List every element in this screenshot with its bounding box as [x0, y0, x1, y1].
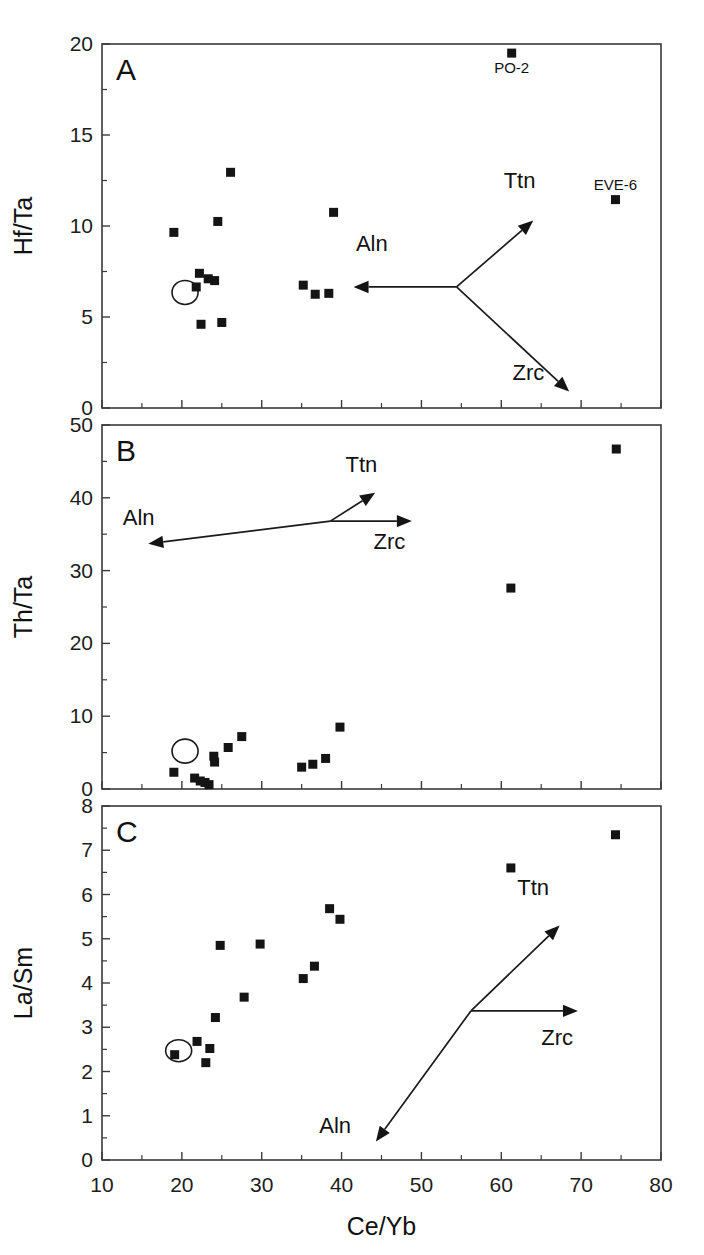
vector-label-ttn-A: Ttn — [504, 168, 536, 193]
x-axis-title: Ce/Yb — [347, 1212, 416, 1240]
y-tick-label-A-3: 15 — [70, 123, 93, 146]
y-axis-title-A: Hf/Ta — [9, 197, 37, 255]
data-point-A-1 — [195, 269, 204, 278]
data-point-A-5 — [197, 320, 206, 329]
y-tick-label-C-4: 4 — [81, 971, 93, 994]
data-point-B-10 — [308, 760, 317, 769]
vector-label-aln-A: Aln — [356, 231, 388, 256]
x-tick-label-0: 10 — [90, 1173, 113, 1196]
data-point-B-8 — [237, 732, 246, 741]
vector-line-ttn-B — [330, 501, 362, 521]
y-tick-label-C-5: 5 — [81, 927, 93, 950]
vector-arrowhead-aln-B — [148, 536, 164, 548]
data-point-C-3 — [205, 1044, 214, 1053]
vector-zrc-A: Zrc — [457, 287, 570, 392]
x-axis-group: 1020304050607080Ce/Yb — [90, 1173, 672, 1240]
panel-letter-A: A — [116, 53, 136, 86]
x-tick-label-3: 40 — [330, 1173, 353, 1196]
data-point-C-11 — [335, 915, 344, 924]
data-point-B-9 — [297, 763, 306, 772]
vector-ttn-B: Ttn — [330, 452, 377, 522]
data-point-C-12 — [506, 863, 515, 872]
data-point-C-7 — [256, 940, 265, 949]
data-point-C-6 — [240, 993, 249, 1002]
data-point-A-0 — [169, 228, 178, 237]
vector-line-ttn-C — [471, 936, 549, 1011]
plot-frame-B — [102, 425, 661, 789]
multi-panel-scatter-figure: 05101520Hf/TaAAlnTtnZrcPO-2EVE-601020304… — [0, 0, 704, 1255]
data-point-A-13 — [507, 49, 516, 58]
data-point-A-10 — [311, 290, 320, 299]
x-tick-label-6: 70 — [569, 1173, 592, 1196]
data-point-label-eve-6: EVE-6 — [594, 176, 637, 193]
panel-letter-C: C — [116, 815, 138, 848]
plot-frame-A — [102, 44, 661, 408]
y-tick-label-C-3: 3 — [81, 1015, 93, 1038]
y-axis-title-C: La/Sm — [9, 947, 37, 1019]
data-point-C-1 — [193, 1037, 202, 1046]
data-point-C-2 — [201, 1058, 210, 1067]
vector-aln-B: Aln — [123, 505, 331, 548]
data-point-B-11 — [321, 754, 330, 763]
vector-label-zrc-A: Zrc — [512, 360, 544, 385]
data-point-A-3 — [210, 276, 219, 285]
data-point-C-10 — [325, 904, 334, 913]
panel-C: 012345678La/SmCAlnTtnZrc — [9, 794, 661, 1171]
data-point-A-7 — [213, 217, 222, 226]
data-point-A-11 — [324, 289, 333, 298]
data-point-A-9 — [299, 281, 308, 290]
panel-letter-B: B — [116, 434, 136, 467]
panel-B: 01020304050Th/TaBAlnTtnZrc — [9, 413, 661, 800]
data-point-B-6 — [210, 758, 219, 767]
data-point-B-13 — [506, 584, 515, 593]
y-tick-label-B-4: 40 — [70, 486, 93, 509]
data-point-B-14 — [612, 445, 621, 454]
y-tick-label-B-2: 20 — [70, 631, 93, 654]
vector-ttn-A: Ttn — [457, 168, 536, 287]
y-tick-label-C-0: 0 — [81, 1148, 93, 1171]
y-tick-label-C-1: 1 — [81, 1104, 93, 1127]
data-point-A-4 — [192, 282, 201, 291]
x-tick-label-2: 30 — [250, 1173, 273, 1196]
data-point-C-9 — [310, 962, 319, 971]
vector-ttn-C: Ttn — [471, 875, 560, 1011]
vector-label-aln-C: Aln — [319, 1113, 351, 1138]
data-point-A-14 — [611, 195, 620, 204]
vector-line-aln-B — [163, 521, 330, 542]
vector-arrowhead-zrc-C — [563, 1005, 578, 1017]
y-tick-label-C-6: 6 — [81, 883, 93, 906]
vector-zrc-B: Zrc — [330, 515, 411, 554]
y-axis-title-B: Th/Ta — [9, 576, 37, 639]
x-tick-label-5: 60 — [490, 1173, 513, 1196]
x-tick-label-4: 50 — [410, 1173, 433, 1196]
data-point-A-8 — [226, 168, 235, 177]
data-point-B-7 — [224, 743, 233, 752]
vector-arrowhead-aln-A — [354, 281, 369, 293]
y-tick-label-A-2: 10 — [70, 214, 93, 237]
y-tick-label-B-1: 10 — [70, 704, 93, 727]
data-point-C-8 — [299, 974, 308, 983]
vector-arrowhead-aln-C — [376, 1126, 390, 1142]
data-point-B-12 — [335, 723, 344, 732]
vector-label-ttn-B: Ttn — [346, 452, 378, 477]
data-point-C-0 — [170, 1050, 179, 1059]
data-point-B-4 — [205, 780, 214, 789]
data-point-label-po-2: PO-2 — [494, 59, 529, 76]
y-tick-label-C-7: 7 — [81, 838, 93, 861]
y-tick-label-C-2: 2 — [81, 1060, 93, 1083]
x-tick-label-7: 80 — [649, 1173, 672, 1196]
vector-zrc-C: Zrc — [471, 1005, 578, 1050]
vector-arrowhead-ttn-B — [359, 493, 375, 506]
y-tick-label-A-4: 20 — [70, 32, 93, 55]
vector-label-ttn-C: Ttn — [517, 875, 549, 900]
data-point-B-0 — [169, 768, 178, 777]
data-point-A-6 — [217, 318, 226, 327]
vector-line-ttn-A — [457, 230, 522, 287]
y-tick-label-A-1: 5 — [81, 305, 93, 328]
figure-container: 05101520Hf/TaAAlnTtnZrcPO-2EVE-601020304… — [0, 0, 704, 1255]
y-tick-label-B-3: 30 — [70, 559, 93, 582]
plot-frame-C — [102, 806, 661, 1160]
data-point-C-13 — [611, 830, 620, 839]
x-tick-label-1: 20 — [170, 1173, 193, 1196]
data-point-C-4 — [211, 1013, 220, 1022]
